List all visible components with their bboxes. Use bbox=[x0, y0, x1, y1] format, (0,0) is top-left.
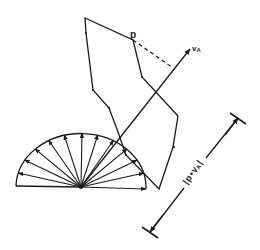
dimension-label: |p•vA| bbox=[181, 158, 205, 186]
vector-va-label: vA bbox=[192, 44, 201, 53]
point-p-label: p bbox=[130, 29, 136, 40]
dimension-arrow-bottom bbox=[150, 215, 163, 232]
vector-va-arrow bbox=[81, 49, 190, 187]
polygon-vertex-ticks bbox=[85, 32, 175, 156]
direction-spokes bbox=[18, 133, 146, 189]
half-disk-base bbox=[16, 186, 81, 187]
projection-diagram: p vA |p•vA| bbox=[0, 0, 260, 250]
dimension-arrow-top bbox=[225, 118, 238, 135]
